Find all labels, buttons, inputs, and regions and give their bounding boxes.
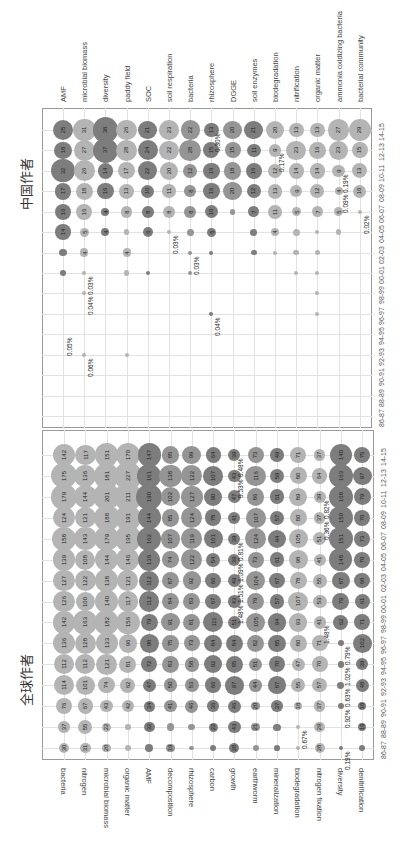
data-bubble: 55 [313, 574, 327, 588]
bubble-value: 79 [359, 494, 365, 501]
bubble-value: 31 [81, 127, 87, 134]
data-bubble: 20 [223, 121, 241, 139]
data-bubble: 38 [93, 117, 118, 142]
data-bubble [273, 724, 280, 731]
bubble-value: 59 [274, 473, 280, 480]
data-bubble: 150 [329, 506, 352, 529]
bubble-value: 57 [274, 598, 280, 605]
bubble-value: 102 [359, 638, 365, 648]
bubble-value: 158 [61, 534, 67, 544]
data-bubble: 112 [139, 571, 159, 591]
data-bubble: 83 [162, 656, 179, 673]
percent-annotation: 0.19% [344, 752, 351, 770]
data-bubble: 32 [144, 722, 155, 733]
data-bubble: 13 [268, 184, 283, 199]
bubble-value: 42 [125, 703, 131, 710]
time-tick-label: 92-93 [378, 348, 385, 366]
keyword-label: rhizosphere [207, 63, 216, 102]
bubble-value: 49 [274, 452, 280, 459]
data-bubble: 67 [78, 698, 94, 714]
data-bubble: 73 [248, 552, 264, 568]
bubble-value: 67 [274, 577, 280, 584]
bubble-value: 112 [146, 597, 152, 607]
bubble-value: 20 [166, 168, 172, 175]
data-bubble: 14 [55, 224, 70, 239]
bubble-value: 81 [125, 661, 131, 668]
data-bubble: 16 [309, 142, 325, 158]
bubble-value: 57 [317, 682, 323, 689]
data-bubble: 73 [248, 447, 264, 463]
bubble-value: 122 [189, 471, 195, 481]
data-bubble: 80 [290, 635, 307, 652]
bubble-value: 13 [272, 188, 278, 195]
bubble-value: 24 [145, 147, 151, 154]
data-bubble: 116 [245, 466, 265, 486]
data-bubble: 20 [160, 162, 178, 180]
time-tick-label: 06-07 [380, 532, 387, 550]
data-bubble: 53 [185, 678, 199, 692]
bubble-value: 14 [60, 229, 66, 236]
data-bubble: 5 [207, 228, 216, 237]
bubble-value: 41 [317, 619, 323, 626]
data-bubble: 41 [314, 554, 326, 566]
data-bubble: 121 [75, 507, 96, 528]
time-tick-label: 12-13 [380, 469, 387, 487]
bubble-value: 47 [295, 661, 301, 668]
data-bubble: 46 [185, 700, 198, 713]
data-bubble: 87 [332, 572, 350, 590]
bubble-value: 195 [125, 534, 131, 544]
percent-annotation: 1.09% [237, 563, 244, 581]
data-bubble: 140 [95, 590, 117, 612]
bubble-value: 151 [338, 534, 344, 544]
bubble-value: 18 [81, 188, 87, 195]
data-bubble: 168 [329, 485, 354, 510]
bubble-value: 31 [82, 745, 88, 752]
data-bubble: 102 [353, 634, 372, 653]
bubble-value: 29 [357, 127, 363, 134]
data-bubble [82, 353, 86, 357]
bubble-value: 122 [82, 576, 88, 586]
bubble-value: 43 [104, 703, 110, 710]
data-bubble: 14 [289, 163, 304, 178]
keyword-label: microbial biomass [102, 768, 111, 828]
data-bubble: 161 [137, 464, 161, 488]
percent-annotation: 0.03% [87, 277, 94, 295]
percent-annotation: 0.79% [344, 647, 351, 665]
data-bubble: 18 [294, 702, 302, 710]
bubble-value: 14 [293, 167, 299, 174]
bubble-value: 14 [102, 167, 108, 174]
bubble-value: 37 [274, 703, 280, 710]
bubble-value: 73 [253, 452, 259, 459]
percent-annotation: 1.48% [237, 605, 244, 623]
bubble-value: 50 [167, 682, 173, 689]
bubble-value: 22 [210, 724, 216, 731]
data-bubble [188, 251, 192, 255]
data-bubble: 138 [159, 465, 181, 487]
bubble-value: 140 [104, 596, 110, 606]
bubble-value: 9 [293, 190, 299, 193]
data-bubble: 121 [96, 654, 117, 675]
bubble-value: 29 [317, 724, 323, 731]
data-bubble: 96 [119, 634, 138, 653]
data-bubble: 85 [268, 635, 286, 653]
bubble-value: 76 [61, 703, 67, 710]
bubble-value: 12 [187, 168, 193, 175]
keyword-label: biodegradation [293, 768, 302, 818]
bubble-value: 85 [231, 661, 237, 668]
keyword-label: carbon [208, 768, 217, 791]
bubble-value: 5 [81, 230, 87, 233]
bubble-value: 14 [314, 167, 320, 174]
bubble-value: 144 [146, 513, 152, 523]
data-bubble: 78 [290, 572, 307, 589]
bubble-value: 98 [295, 556, 301, 563]
bubble-value: 70 [359, 556, 365, 563]
bubble-value: 73 [359, 535, 365, 542]
data-bubble: 156 [116, 611, 140, 635]
bubble-value: 146 [125, 555, 131, 565]
data-bubble [293, 229, 300, 236]
data-bubble: 31 [80, 743, 91, 754]
data-bubble: 19 [166, 744, 174, 752]
bubble-value: 73 [189, 640, 195, 647]
bubble-value: 182 [104, 617, 110, 627]
bubble-value: 70 [317, 661, 323, 668]
